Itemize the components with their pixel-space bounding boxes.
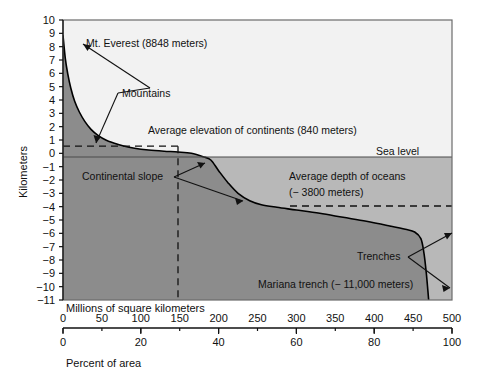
x-axis-secondary-title: Percent of area <box>66 357 142 369</box>
hypsographic-curve-figure: 109876543210−1−2−3−4−5−6−7−8−9−10−11 Kil… <box>0 0 481 377</box>
x-axis-primary-tick-label: 0 <box>60 312 66 324</box>
y-axis-tick-label: 0 <box>49 147 55 159</box>
y-axis-tick-label: −1 <box>42 161 55 173</box>
y-axis-title: Kilometers <box>17 146 29 198</box>
y-axis-tick-label: 2 <box>49 121 55 133</box>
x-axis-primary-tick-label: 400 <box>365 312 383 324</box>
y-axis-tick-label: −3 <box>42 187 55 199</box>
x-axis-primary-tick-label: 150 <box>171 312 189 324</box>
chart-svg: 109876543210−1−2−3−4−5−6−7−8−9−10−11 Kil… <box>0 0 481 377</box>
annotation-mt-everest: Mt. Everest (8848 meters) <box>86 37 207 49</box>
x-axis-primary-tick-label: 300 <box>287 312 305 324</box>
y-axis-tick-label: 9 <box>49 27 55 39</box>
y-axis-tick-label: 6 <box>49 67 55 79</box>
annotation-trenches: Trenches <box>357 250 400 262</box>
annotation-continental-slope: Continental slope <box>82 170 163 182</box>
x-axis-primary-tick-label: 200 <box>209 312 227 324</box>
y-axis-tick-label: −9 <box>42 267 55 279</box>
x-axis-primary-tick-label: 350 <box>326 312 344 324</box>
y-axis-tick-label: 5 <box>49 81 55 93</box>
x-axis-secondary-tick-label: 0 <box>60 336 66 348</box>
y-axis-tick-label: 1 <box>49 134 55 146</box>
x-axis-primary-tick-label: 450 <box>404 312 422 324</box>
annotation-avg-depth-oceans-line1: Average depth of oceans <box>289 170 406 182</box>
y-axis-tick-label: 4 <box>49 94 55 106</box>
y-axis-tick-label: −6 <box>42 227 55 239</box>
x-axis-primary-tick-label: 100 <box>132 312 150 324</box>
y-axis-tick-label: 3 <box>49 107 55 119</box>
y-axis-tick-label: 8 <box>49 41 55 53</box>
y-axis-tick-label: −7 <box>42 241 55 253</box>
y-axis-tick-label: −8 <box>42 254 55 266</box>
x-axis-primary-tick-label: 500 <box>443 312 461 324</box>
x-axis-secondary-tick-label: 80 <box>368 336 380 348</box>
x-axis-secondary-tick-label: 60 <box>290 336 302 348</box>
y-axis-tick-label: −2 <box>42 174 55 186</box>
annotation-avg-elevation-continents: Average elevation of continents (840 met… <box>148 124 357 136</box>
x-axis-secondary-tick-label: 20 <box>135 336 147 348</box>
y-axis-tick-label: 7 <box>49 54 55 66</box>
x-axis-secondary-tick-label: 100 <box>443 336 461 348</box>
y-axis-tick-label: 10 <box>43 14 55 26</box>
x-axis-primary-tick-label: 50 <box>96 312 108 324</box>
y-axis-tick-label: −5 <box>42 214 55 226</box>
y-axis-tick-label: −10 <box>36 281 55 293</box>
y-axis-tick-label: −11 <box>37 294 55 306</box>
x-axis-primary-tick-label: 250 <box>248 312 266 324</box>
x-axis-secondary-tick-label: 40 <box>212 336 224 348</box>
y-axis-tick-label: −4 <box>42 201 55 213</box>
annotation-sea-level: Sea level <box>376 145 419 157</box>
annotation-avg-depth-oceans-line2: (− 3800 meters) <box>289 186 363 198</box>
annotation-mariana-trench: Mariana trench (− 11,000 meters) <box>258 278 413 290</box>
